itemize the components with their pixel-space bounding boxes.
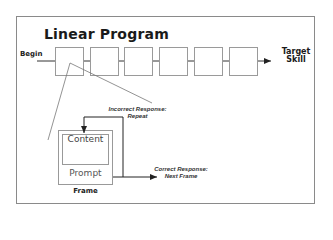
prompt-label: Prompt [60, 168, 111, 178]
sequence-frame-5 [195, 48, 223, 76]
sequence-frame-3 [125, 48, 153, 76]
correct-response-label: Correct Response: Next Frame [150, 166, 212, 180]
incorrect-response-line2: Repeat [100, 113, 175, 120]
incorrect-response-line1: Incorrect Response: [100, 106, 175, 113]
correct-response-line1: Correct Response: [150, 166, 212, 173]
incorrect-response-label: Incorrect Response: Repeat [100, 106, 175, 120]
sequence-frame-6 [230, 48, 258, 76]
frame-label: Frame [60, 187, 111, 195]
sequence-frame-2 [91, 48, 119, 76]
sequence-frame-1 [56, 48, 84, 76]
content-label: Content [62, 134, 109, 144]
correct-response-line2: Next Frame [150, 173, 212, 180]
sequence-frame-4 [160, 48, 188, 76]
